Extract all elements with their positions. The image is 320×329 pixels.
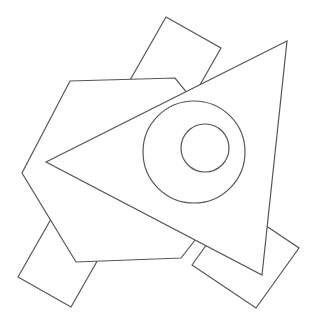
geometric-line-drawing bbox=[0, 0, 320, 329]
